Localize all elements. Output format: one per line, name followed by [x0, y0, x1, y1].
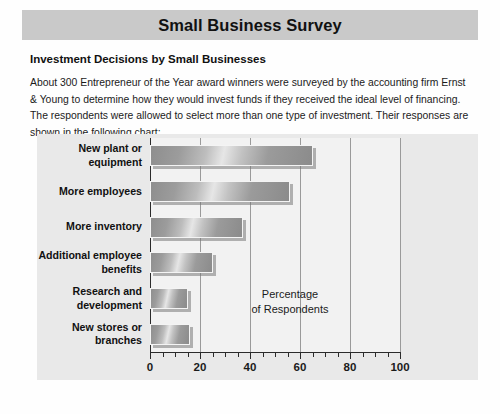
x-tick-major	[250, 353, 251, 359]
bar-row	[150, 252, 213, 273]
title-banner: Small Business Survey	[22, 10, 478, 40]
x-tick-major	[150, 353, 151, 359]
bar	[150, 288, 188, 309]
category-label: Additional employee benefits	[37, 249, 142, 276]
gridline	[350, 138, 351, 352]
gridline	[250, 138, 251, 352]
x-tick-major	[350, 353, 351, 359]
document-page: Small Business Survey Investment Decisio…	[0, 0, 500, 414]
x-tick-minor	[263, 353, 264, 357]
x-tick-minor	[213, 353, 214, 357]
x-tick-minor	[275, 353, 276, 357]
bar-row	[150, 145, 313, 166]
section-subtitle: Investment Decisions by Small Businesses	[30, 53, 470, 65]
x-tick-label: 20	[194, 361, 207, 373]
category-label: New stores or branches	[37, 321, 142, 348]
x-tick-label: 60	[294, 361, 307, 373]
bar-row	[150, 288, 188, 309]
gridline	[400, 138, 401, 352]
bar-row	[150, 181, 290, 202]
gridline	[300, 138, 301, 352]
x-tick-minor	[238, 353, 239, 357]
category-label: More inventory	[37, 220, 142, 234]
plot-area	[150, 138, 400, 352]
bar	[150, 217, 243, 238]
category-label: More employees	[37, 185, 142, 199]
bar	[150, 252, 213, 273]
x-tick-label: 0	[147, 361, 153, 373]
x-tick-minor	[163, 353, 164, 357]
bar-chart: 020406080100 New plant or equipmentMore …	[37, 134, 478, 380]
x-tick-major	[300, 353, 301, 359]
page-title: Small Business Survey	[158, 16, 342, 35]
axis-annotation: Percentage of Respondents	[230, 287, 350, 317]
x-tick-minor	[313, 353, 314, 357]
x-tick-minor	[288, 353, 289, 357]
x-tick-label: 40	[244, 361, 257, 373]
x-tick-label: 100	[390, 361, 409, 373]
category-label: New plant or equipment	[37, 142, 142, 169]
x-tick-major	[200, 353, 201, 359]
gridline	[200, 138, 201, 352]
bar	[150, 145, 313, 166]
x-tick-major	[400, 353, 401, 359]
x-tick-minor	[325, 353, 326, 357]
x-tick-minor	[225, 353, 226, 357]
x-tick-minor	[388, 353, 389, 357]
x-tick-minor	[188, 353, 189, 357]
x-tick-minor	[375, 353, 376, 357]
x-tick-minor	[175, 353, 176, 357]
x-tick-minor	[363, 353, 364, 357]
category-label: Research and development	[37, 285, 142, 312]
body-paragraph: About 300 Entrepreneur of the Year award…	[30, 75, 474, 141]
bar-row	[150, 324, 190, 345]
x-tick-minor	[338, 353, 339, 357]
bar-row	[150, 217, 243, 238]
bar	[150, 324, 190, 345]
x-tick-label: 80	[344, 361, 357, 373]
y-axis-line	[150, 138, 151, 352]
bar	[150, 181, 290, 202]
